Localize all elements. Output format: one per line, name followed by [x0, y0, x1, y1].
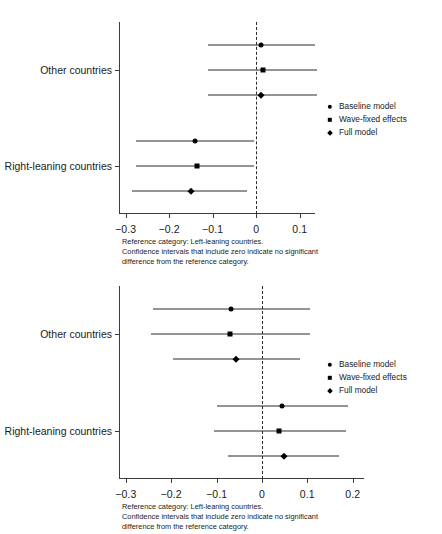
- legend-item-label: Full model: [339, 128, 377, 136]
- x-tick-label: 0.1: [292, 223, 307, 235]
- circle-marker-icon: [325, 360, 334, 369]
- point-estimate-marker-circle: [229, 307, 234, 312]
- x-tick: [307, 479, 308, 483]
- x-tick: [300, 214, 301, 218]
- x-tick: [256, 214, 257, 218]
- point-estimate-marker-diamond: [232, 356, 238, 362]
- x-tick-label: 0.1: [300, 488, 315, 500]
- y-tick: [115, 166, 119, 167]
- coefficient-plot-top: −0.3−0.2−0.100.1 Other countriesRight-le…: [0, 0, 442, 268]
- legend-item[interactable]: Full model: [325, 126, 407, 139]
- x-tick-label: −0.3: [115, 223, 136, 235]
- x-tick-label: −0.1: [206, 488, 227, 500]
- circle-marker-icon: [325, 102, 334, 111]
- legend-top: Baseline modelWave-fixed effectsFull mod…: [325, 100, 407, 139]
- point-estimate-marker-diamond: [188, 188, 194, 194]
- legend-item[interactable]: Full model: [325, 384, 407, 397]
- point-estimate-marker-square: [194, 164, 199, 169]
- x-axis-line-bottom: [119, 478, 364, 479]
- point-estimate-marker-circle: [259, 43, 264, 48]
- y-axis-category-label: Right-leaning countries: [5, 160, 112, 172]
- diamond-marker-icon: [325, 128, 334, 137]
- x-tick-label: −0.2: [161, 488, 182, 500]
- diamond-marker-icon: [325, 386, 334, 395]
- y-axis-line-bottom: [119, 286, 120, 479]
- point-estimate-marker-diamond: [280, 453, 286, 459]
- legend-item-label: Baseline model: [339, 102, 396, 110]
- legend-bottom: Baseline modelWave-fixed effectsFull mod…: [325, 358, 407, 397]
- x-tick: [169, 214, 170, 218]
- legend-item[interactable]: Baseline model: [325, 100, 407, 113]
- x-tick: [126, 214, 127, 218]
- x-tick-label: 0: [253, 223, 259, 235]
- point-estimate-marker-diamond: [258, 92, 264, 98]
- x-tick: [262, 479, 263, 483]
- x-tick-label: −0.2: [159, 223, 180, 235]
- x-tick: [217, 479, 218, 483]
- legend-item-label: Wave-fixed effects: [339, 115, 407, 123]
- legend-item[interactable]: Baseline model: [325, 358, 407, 371]
- point-estimate-marker-square: [277, 428, 282, 433]
- zero-reference-line-bottom: [262, 286, 263, 479]
- point-estimate-marker-square: [260, 68, 265, 73]
- legend-item-label: Full model: [339, 386, 377, 394]
- x-axis-line-top: [119, 213, 315, 214]
- x-tick-label: 0.2: [345, 488, 360, 500]
- legend-item-label: Baseline model: [339, 360, 396, 368]
- x-tick: [353, 479, 354, 483]
- x-tick: [213, 214, 214, 218]
- x-tick-label: −0.3: [115, 488, 136, 500]
- y-axis-category-label: Right-leaning countries: [5, 425, 112, 437]
- coefficient-plot-bottom: −0.3−0.2−0.100.10.2 Other countriesRight…: [0, 268, 442, 534]
- legend-item-label: Wave-fixed effects: [339, 373, 407, 381]
- point-estimate-marker-square: [228, 332, 233, 337]
- y-axis-category-label: Other countries: [40, 64, 112, 76]
- y-axis-category-label: Other countries: [40, 328, 112, 340]
- footnote-bottom: Reference category: Left-leaning countri…: [122, 502, 422, 531]
- x-tick-label: −0.1: [202, 223, 223, 235]
- legend-item[interactable]: Wave-fixed effects: [325, 371, 407, 384]
- y-tick: [115, 431, 119, 432]
- plot-area-top: −0.3−0.2−0.100.1 Other countriesRight-le…: [119, 22, 315, 214]
- square-marker-icon: [325, 373, 334, 382]
- x-tick: [126, 479, 127, 483]
- square-marker-icon: [325, 115, 334, 124]
- legend-item[interactable]: Wave-fixed effects: [325, 113, 407, 126]
- y-tick: [115, 334, 119, 335]
- zero-reference-line-top: [256, 22, 257, 214]
- figure-page: −0.3−0.2−0.100.1 Other countriesRight-le…: [0, 0, 442, 534]
- x-tick: [171, 479, 172, 483]
- point-estimate-marker-circle: [279, 403, 284, 408]
- y-tick: [115, 70, 119, 71]
- footnote-top: Reference category: Left-leaning countri…: [122, 237, 422, 266]
- y-axis-line-top: [119, 22, 120, 214]
- x-tick-label: 0: [259, 488, 265, 500]
- point-estimate-marker-circle: [193, 139, 198, 144]
